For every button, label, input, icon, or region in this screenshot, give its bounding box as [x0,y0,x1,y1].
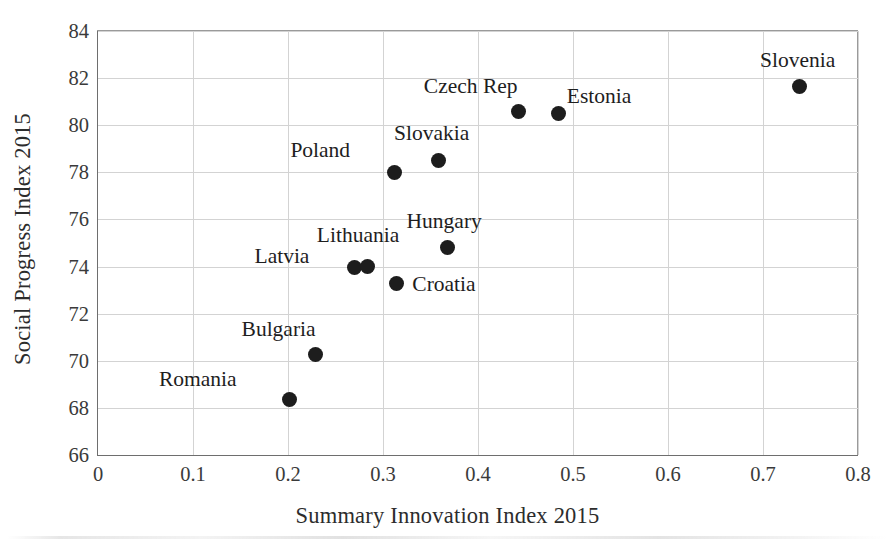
data-point-label: Poland [290,140,350,162]
data-point-label: Hungary [407,211,482,233]
y-tick-label: 80 [69,115,90,136]
y-tick-label: 82 [69,68,90,89]
data-point-label: Slovenia [760,50,835,72]
x-tick-label: 0.8 [845,464,871,485]
y-tick-label: 78 [69,162,90,183]
scan-artifact [8,536,888,539]
y-tick-label: 76 [69,209,90,230]
y-tick-label: 72 [69,303,90,324]
scatter-chart: 66687072747678808284 00.10.20.30.40.50.6… [0,0,895,545]
data-point-label: Czech Rep [424,76,518,98]
data-point[interactable] [282,392,297,407]
gridline-vertical [858,31,859,455]
data-point[interactable] [551,106,566,121]
data-point-label: Lithuania [317,225,399,247]
y-tick-label: 74 [69,256,90,277]
data-point-label: Slovakia [394,123,469,145]
y-axis-title: Social Progress Index 2015 [10,29,36,449]
y-tick-label: 66 [69,445,90,466]
y-tick-label: 70 [69,351,90,372]
y-tick-label: 84 [69,21,90,42]
x-tick-label: 0.4 [465,464,491,485]
y-tick-label: 68 [69,398,90,419]
data-point[interactable] [387,165,402,180]
gridline-vertical [193,31,194,455]
data-point[interactable] [792,79,807,94]
data-point[interactable] [389,276,404,291]
x-axis-title: Summary Innovation Index 2015 [0,503,895,529]
gridline-vertical [668,31,669,455]
data-point[interactable] [431,153,446,168]
x-tick-label: 0.6 [655,464,681,485]
x-tick-label: 0.1 [180,464,206,485]
x-tick-label: 0.3 [370,464,396,485]
data-point-label: Bulgaria [242,319,316,341]
data-point-label: Latvia [255,246,310,268]
x-tick-label: 0 [93,464,103,485]
data-point-label: Romania [159,369,237,391]
x-tick-label: 0.7 [750,464,776,485]
data-point-label: Croatia [412,274,475,296]
x-tick-label: 0.5 [560,464,586,485]
data-point[interactable] [511,104,526,119]
data-point[interactable] [440,240,455,255]
x-tick-label: 0.2 [275,464,301,485]
plot-area: 66687072747678808284 00.10.20.30.40.50.6… [97,31,858,456]
gridline-vertical [763,31,764,455]
data-point[interactable] [360,259,375,274]
data-point-label: Estonia [567,86,632,108]
